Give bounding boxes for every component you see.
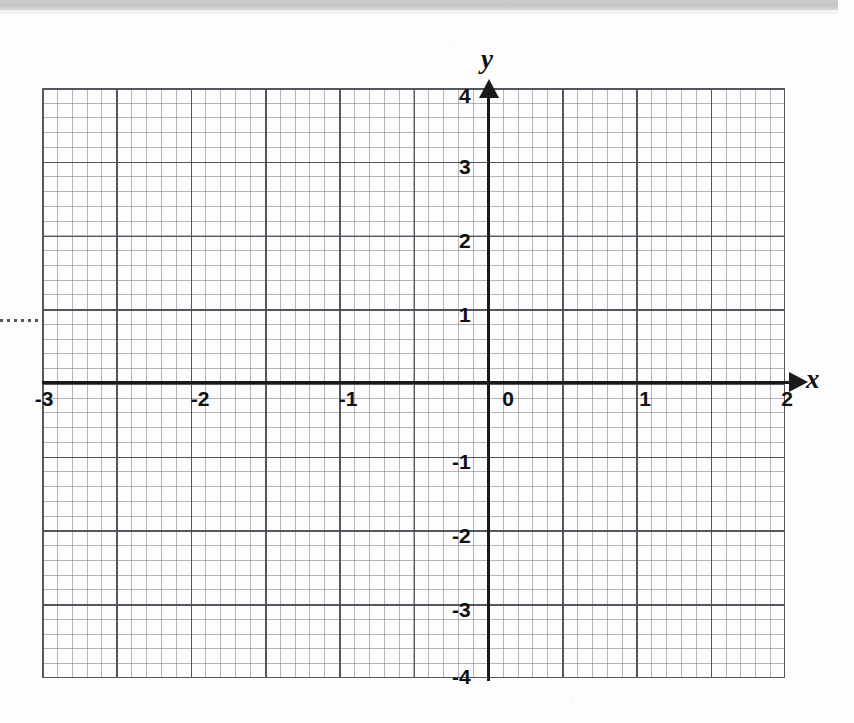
scan-artifact-dotted-line xyxy=(0,319,44,322)
x-axis-line xyxy=(42,381,794,384)
y-tick-label-neg3: -3 xyxy=(452,599,471,620)
y-tick-label-1: 1 xyxy=(459,304,471,325)
x-tick-label-zero: 0 xyxy=(502,388,514,409)
y-tick-label-2: 2 xyxy=(459,230,471,251)
x-axis-label: x xyxy=(806,366,820,393)
x-tick-label-neg3: -3 xyxy=(35,388,54,409)
y-tick-label-neg2: -2 xyxy=(452,525,471,546)
y-axis-line xyxy=(487,84,490,681)
scan-artifact-top-bar xyxy=(0,0,838,10)
y-tick-label-3: 3 xyxy=(459,156,471,177)
x-tick-label-neg2: -2 xyxy=(191,388,210,409)
x-tick-label-1: 1 xyxy=(639,388,651,409)
y-tick-label-4: 4 xyxy=(459,85,471,106)
y-axis-arrow-icon xyxy=(479,79,499,98)
x-tick-label-2: 2 xyxy=(781,388,793,409)
y-tick-label-neg1: -1 xyxy=(452,451,471,472)
y-tick-label-neg4: -4 xyxy=(452,666,471,687)
y-axis-label: y xyxy=(481,46,493,73)
x-tick-label-neg1: -1 xyxy=(339,388,358,409)
